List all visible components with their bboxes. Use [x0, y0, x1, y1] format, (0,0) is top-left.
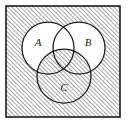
- set-label-c: C: [60, 81, 68, 93]
- venn-diagram-figure: A B C: [0, 0, 130, 126]
- set-label-b: B: [85, 36, 92, 48]
- set-label-a: A: [34, 36, 42, 48]
